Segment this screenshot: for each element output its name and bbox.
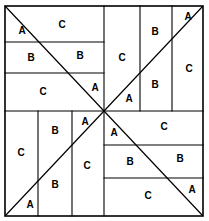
- piece-label-tr-col1-a: A: [125, 93, 132, 104]
- piece-label-bl-col3-c: C: [83, 160, 90, 171]
- pattern-diagram: ACBBCACABBACCABBACACBBCA: [0, 0, 209, 221]
- piece-label-br-band2-b1: B: [126, 156, 133, 167]
- piece-label-tr-col3-a: A: [184, 11, 191, 22]
- piece-label-tr-col1-c: C: [118, 52, 125, 63]
- piece-label-tl-band3-a: A: [91, 82, 98, 93]
- piece-label-br-band3-c: C: [144, 190, 151, 201]
- piece-label-tr-col2-b1: B: [151, 26, 158, 37]
- piece-label-br-band1-a: A: [110, 127, 117, 138]
- piece-label-tl-band1-c: C: [58, 19, 65, 30]
- piece-label-tr-col2-b2: B: [151, 79, 158, 90]
- piece-label-br-band2-b2: B: [176, 153, 183, 164]
- piece-label-tr-col3-c: C: [185, 63, 192, 74]
- piece-label-bl-col1-c: C: [17, 147, 24, 158]
- piece-label-bl-col2-b1: B: [51, 125, 58, 136]
- quilt-block-svg: ACBBCACABBACCABBACACBBCA: [0, 0, 209, 221]
- piece-label-bl-col3-a: A: [81, 116, 88, 127]
- piece-label-br-band3-a: A: [188, 184, 195, 195]
- piece-label-tl-band2-b1: B: [27, 52, 34, 63]
- piece-label-tl-band2-b2: B: [76, 50, 83, 61]
- piece-label-br-band1-c: C: [160, 121, 167, 132]
- piece-label-bl-col2-b2: B: [51, 179, 58, 190]
- piece-label-tl-band1-a: A: [18, 25, 25, 36]
- piece-label-tl-band3-c: C: [39, 86, 46, 97]
- piece-label-bl-col1-a: A: [26, 199, 33, 210]
